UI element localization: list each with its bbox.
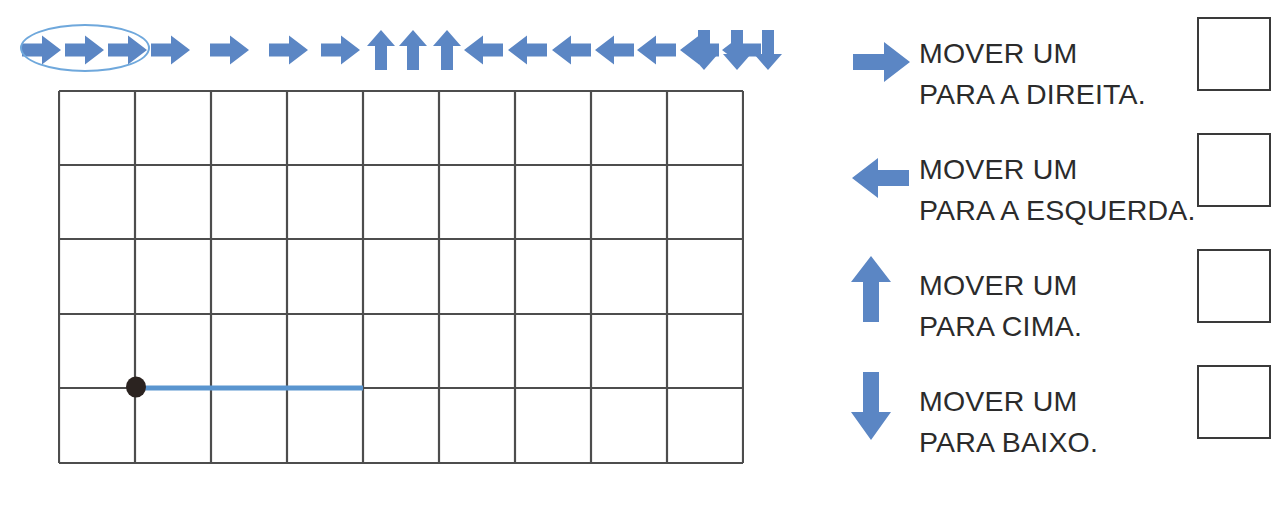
legend-line1-right: MOVER UM bbox=[919, 37, 1077, 70]
legend-text-down: MOVER UM PARA BAIXO. bbox=[919, 360, 1264, 470]
legend-text-left: MOVER UM PARA A ESQUERDA. bbox=[919, 128, 1264, 238]
sequence-arrow-right-4[interactable] bbox=[151, 36, 190, 65]
grid-vertical-lines bbox=[59, 91, 743, 463]
sequence-arrow-left-5[interactable] bbox=[637, 36, 676, 65]
coordinate-grid[interactable] bbox=[58, 90, 744, 464]
command-legend: MOVER UM PARA A DIREITA. MOVER UM PARA A… bbox=[845, 8, 1265, 503]
sequence-arrow-left-3[interactable] bbox=[552, 36, 591, 65]
legend-line1-left: MOVER UM bbox=[919, 153, 1077, 186]
sequence-arrow-right-7[interactable] bbox=[321, 36, 360, 65]
answer-box-right[interactable] bbox=[1197, 17, 1271, 91]
legend-item-up: MOVER UM PARA CIMA. bbox=[845, 244, 1265, 362]
legend-line1-down: MOVER UM bbox=[919, 385, 1077, 418]
command-sequence-strip bbox=[0, 0, 800, 90]
arrow-right-icon bbox=[847, 12, 915, 112]
arrow-up-icon bbox=[847, 244, 915, 344]
grid-horizontal-lines bbox=[59, 91, 743, 463]
sequence-arrow-left-4[interactable] bbox=[595, 36, 634, 65]
sequence-arrow-up-1[interactable] bbox=[367, 30, 395, 70]
answer-box-up[interactable] bbox=[1197, 249, 1271, 323]
legend-line1-up: MOVER UM bbox=[919, 269, 1077, 302]
legend-text-up: MOVER UM PARA CIMA. bbox=[919, 244, 1264, 354]
legend-item-down: MOVER UM PARA BAIXO. bbox=[845, 360, 1265, 478]
legend-line2-left: PARA A ESQUERDA. bbox=[919, 194, 1196, 227]
arrow-left-icon bbox=[847, 128, 915, 228]
sequence-arrow-right-6[interactable] bbox=[269, 36, 308, 65]
selection-ellipse bbox=[20, 24, 150, 72]
arrow-down-icon bbox=[847, 360, 915, 460]
coordinate-grid-svg bbox=[58, 90, 744, 464]
sequence-arrow-up-2[interactable] bbox=[399, 30, 427, 70]
sequence-arrow-right-5[interactable] bbox=[210, 36, 249, 65]
sequence-arrow-up-3[interactable] bbox=[433, 30, 461, 70]
answer-box-left[interactable] bbox=[1197, 133, 1271, 207]
legend-item-left: MOVER UM PARA A ESQUERDA. bbox=[845, 128, 1265, 246]
legend-line2-down: PARA BAIXO. bbox=[919, 426, 1098, 459]
sequence-arrow-left-1[interactable] bbox=[464, 36, 503, 65]
legend-line2-right: PARA A DIREITA. bbox=[919, 78, 1146, 111]
sequence-arrow-left-2[interactable] bbox=[508, 36, 547, 65]
legend-item-right: MOVER UM PARA A DIREITA. bbox=[845, 12, 1265, 130]
answer-box-down[interactable] bbox=[1197, 365, 1271, 439]
legend-text-right: MOVER UM PARA A DIREITA. bbox=[919, 12, 1264, 122]
legend-line2-up: PARA CIMA. bbox=[919, 310, 1082, 343]
start-point-marker[interactable] bbox=[126, 377, 146, 398]
